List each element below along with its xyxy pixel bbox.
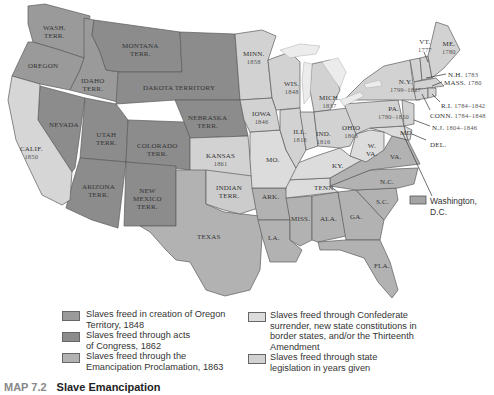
label-utah: UTAHTERR. <box>96 131 117 147</box>
label-idaho: IDAHOTERR. <box>81 77 105 93</box>
legend-swatch-oregon <box>62 311 80 321</box>
legend-item-oregon: Slaves freed in creation of Oregon Terri… <box>86 309 226 330</box>
region-utah-terr <box>80 98 128 162</box>
label-mass: MASS. 1780 <box>444 79 482 87</box>
label-oregon: OREGON <box>28 62 58 70</box>
legend-item-emancipation: Slaves freed through the Emancipation Pr… <box>86 351 236 372</box>
label-wis: WIS.1848 <box>284 80 299 96</box>
label-sc: S.C. <box>376 198 389 206</box>
label-ri: R.I. 1784–1842 <box>441 102 485 110</box>
label-ill: ILL.1818 <box>293 128 307 144</box>
label-ala: ALA. <box>320 215 337 223</box>
label-nj: N.J. 1804–1846 <box>432 124 477 132</box>
label-mo: MO. <box>266 156 280 164</box>
legend-item-confederate: Slaves freed through Confederate surrend… <box>270 310 420 352</box>
label-pa: PA.1780–1850 <box>378 105 409 121</box>
legend-swatch-confederate <box>248 312 266 322</box>
label-calif: CALIF.1850 <box>20 145 43 161</box>
label-ind: IND.1816 <box>316 130 331 146</box>
label-vt: VT.1777 <box>418 38 432 54</box>
label-mich: MICH.1837 <box>319 94 340 110</box>
label-nc: N.C. <box>380 178 394 186</box>
nj-callout-line <box>414 120 430 126</box>
label-indian: INDIANTERR. <box>216 184 242 200</box>
label-texas: TEXAS <box>197 233 221 241</box>
label-ky: KY. <box>332 162 344 170</box>
label-md: MD. <box>400 129 414 137</box>
legend-swatch-state-legislation <box>248 354 266 364</box>
lake-michigan <box>302 62 312 104</box>
label-ny: N.Y.1799–1827 <box>390 78 421 94</box>
label-nevada: NEVADA <box>49 121 79 129</box>
label-va: VA. <box>390 153 402 161</box>
label-newmexico: NEWMEXICOTERR. <box>133 187 162 211</box>
dc-callout-label: Washington, D.C. <box>430 196 494 217</box>
label-fla: FLA. <box>374 262 390 270</box>
label-kansas: KANSAS1861 <box>206 152 235 168</box>
legend-item-congress: Slaves freed through acts of Congress, 1… <box>86 330 198 351</box>
label-wva: W.VA. <box>366 142 378 158</box>
label-iowa: IOWA1846 <box>252 110 271 126</box>
label-del: DEL. <box>430 141 446 149</box>
label-minn: MINN.1858 <box>243 50 264 66</box>
legend-swatch-congress <box>62 332 80 342</box>
label-nh: N.H. 1783 <box>448 71 478 79</box>
map-caption: MAP 7.2Slave Emancipation <box>4 381 161 393</box>
label-ark: ARK. <box>262 193 279 201</box>
map-title: Slave Emancipation <box>57 381 161 393</box>
label-colorado: COLORADOTERR. <box>137 142 178 158</box>
del-callout-line <box>412 134 426 140</box>
label-tenn: TENN. <box>314 184 335 192</box>
label-dakota: DAKOTA TERRITORY <box>143 84 215 92</box>
label-conn: CONN. 1784–1848 <box>430 112 486 120</box>
label-nebraska: NEBRASKATERR. <box>188 114 227 130</box>
legend-item-state-legislation: Slaves freed through state legislation i… <box>270 352 420 373</box>
label-la: LA. <box>268 234 280 242</box>
label-wash: WASH.TERR. <box>43 24 66 40</box>
map-number: MAP 7.2 <box>4 381 47 393</box>
legend-swatch-emancipation <box>62 353 80 363</box>
label-ga: GA. <box>350 213 362 221</box>
label-arizona: ARIZONATERR. <box>82 183 115 199</box>
label-me: ME.1780 <box>442 40 456 56</box>
label-miss: MISS. <box>291 215 310 223</box>
dc-legend-swatch <box>410 196 426 204</box>
label-ohio: OHIO1803 <box>342 124 360 140</box>
label-montana: MONTANATERR. <box>122 42 159 58</box>
